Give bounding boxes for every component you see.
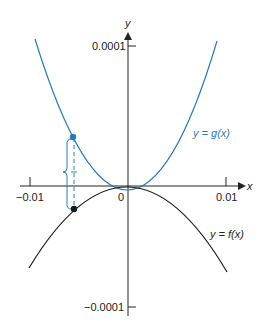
g-point <box>70 134 76 140</box>
y-tick-pos-label: 0.0001 <box>92 40 126 52</box>
y-tick-neg-label: −0.0001 <box>84 301 124 313</box>
x-tick-zero-label: 0 <box>118 191 124 203</box>
chart: y x −0.01 0 0.01 0.0001 −0.0001 y = g(x)… <box>0 0 267 334</box>
y-axis-label: y <box>124 17 132 29</box>
gap-brace <box>63 139 72 209</box>
x-axis-label: x <box>246 180 253 192</box>
g-curve-label: y = g(x) <box>192 127 230 139</box>
g-curve <box>35 39 217 190</box>
f-curve-label: y = f(x) <box>209 228 244 240</box>
x-tick-pos-label: 0.01 <box>216 191 237 203</box>
x-tick-neg-label: −0.01 <box>16 191 44 203</box>
f-point <box>71 206 77 212</box>
